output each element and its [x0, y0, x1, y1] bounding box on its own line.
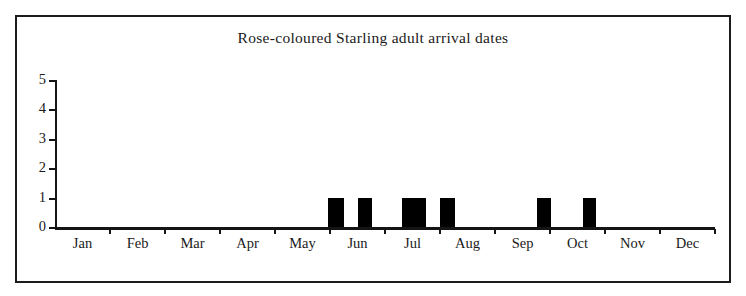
x-axis-tick-label: Jun: [347, 236, 367, 251]
x-axis-tick-mark: [274, 229, 276, 234]
y-axis-tick-label: 5: [39, 72, 46, 87]
chart-screenshot: Rose-coloured Starling adult arrival dat…: [0, 0, 746, 296]
chart-title: Rose-coloured Starling adult arrival dat…: [0, 29, 746, 47]
bar: [328, 198, 344, 227]
x-axis-tick-mark: [329, 229, 331, 234]
x-axis-tick-mark: [439, 229, 441, 234]
bar: [440, 198, 455, 227]
y-axis-tick-label: 1: [39, 190, 46, 205]
x-axis-tick-label: Sep: [512, 236, 534, 251]
y-axis-tick-label: 4: [39, 102, 46, 117]
x-axis-tick-label: Mar: [180, 236, 204, 251]
x-axis-tick-mark: [714, 229, 716, 234]
bar: [537, 198, 551, 227]
x-axis-tick-mark: [109, 229, 111, 234]
x-axis-tick-mark: [384, 229, 386, 234]
y-axis-tick-label: 2: [39, 161, 46, 176]
x-axis-tick-mark: [219, 229, 221, 234]
x-axis-tick-label: Jul: [404, 236, 421, 251]
x-axis-tick-mark: [549, 229, 551, 234]
bar: [402, 198, 426, 227]
x-axis-tick-label: Nov: [620, 236, 645, 251]
y-axis-tick-mark: [49, 227, 55, 229]
bar-series: [55, 80, 715, 227]
x-axis-tick-label: Jan: [73, 236, 92, 251]
x-axis-tick-label: May: [289, 236, 316, 251]
x-axis-tick-label: Dec: [676, 236, 699, 251]
x-axis-tick-mark: [494, 229, 496, 234]
y-axis-tick-label: 3: [39, 131, 46, 146]
bar: [358, 198, 372, 227]
plot-area: 012345 JanFebMarAprMayJunJulAugSepOctNov…: [55, 80, 715, 230]
x-axis-tick-label: Apr: [236, 236, 259, 251]
bar: [583, 198, 596, 227]
x-axis-tick-mark: [659, 229, 661, 234]
y-axis-tick-label: 0: [39, 219, 46, 234]
x-axis-tick-label: Oct: [567, 236, 588, 251]
x-axis-tick-mark: [604, 229, 606, 234]
x-axis-tick-label: Aug: [455, 236, 480, 251]
x-axis-tick-mark: [164, 229, 166, 234]
x-axis-tick-label: Feb: [127, 236, 149, 251]
